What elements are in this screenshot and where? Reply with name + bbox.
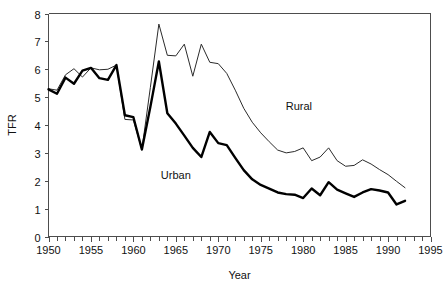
y-tick-label: 0 [34, 232, 40, 244]
chart-axes [49, 14, 431, 237]
y-axis-tick-labels: 012345678 [34, 9, 40, 244]
series-line-urban [49, 61, 406, 204]
x-tick-label: 1965 [164, 244, 188, 256]
y-tick-label: 8 [34, 9, 40, 21]
x-axis-tick-labels: 1950195519601965197019751980198519901995 [36, 244, 442, 256]
x-tick-label: 1995 [418, 244, 442, 256]
x-tick-label: 1960 [121, 244, 145, 256]
x-axis-title: Year [228, 269, 251, 281]
chart-series [49, 24, 406, 204]
y-tick-label: 5 [34, 92, 40, 104]
y-tick-label: 6 [34, 64, 40, 76]
y-tick-label: 7 [34, 36, 40, 48]
series-label-urban: Urban [161, 169, 191, 181]
x-tick-label: 1980 [291, 244, 315, 256]
series-label-rural: Rural [286, 100, 312, 112]
y-tick-label: 4 [34, 120, 40, 132]
x-axis-ticks [50, 237, 432, 242]
y-axis-title: TFR [6, 114, 18, 135]
chart-canvas: 1950195519601965197019751980198519901995… [0, 0, 446, 288]
series-annotations: RuralUrban [161, 100, 312, 182]
x-tick-label: 1950 [36, 244, 60, 256]
x-tick-label: 1985 [333, 244, 357, 256]
tfr-line-chart: 1950195519601965197019751980198519901995… [0, 0, 446, 288]
x-tick-label: 1990 [376, 244, 400, 256]
y-tick-label: 2 [34, 176, 40, 188]
series-line-rural [49, 24, 406, 188]
y-tick-label: 1 [34, 204, 40, 216]
x-tick-label: 1970 [206, 244, 230, 256]
x-tick-label: 1975 [248, 244, 272, 256]
x-tick-label: 1955 [79, 244, 103, 256]
y-axis-ticks [45, 15, 49, 238]
y-tick-label: 3 [34, 148, 40, 160]
